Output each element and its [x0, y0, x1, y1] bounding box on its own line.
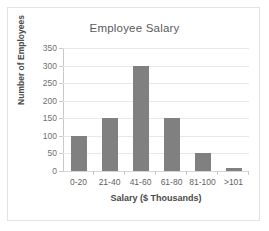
y-axis-tick-label: 50 [17, 149, 57, 158]
bar[interactable] [164, 118, 180, 171]
y-axis-tick-mark [59, 83, 63, 84]
y-axis-tick-mark [59, 136, 63, 137]
y-axis-tick-mark [59, 101, 63, 102]
y-axis-tick-mark [59, 153, 63, 154]
x-axis-tick-slot [187, 171, 218, 175]
y-axis-tick-label: 300 [17, 62, 57, 71]
bar-slot [63, 48, 94, 171]
y-axis-tick-mark [59, 118, 63, 119]
bar-slot [156, 48, 187, 171]
x-axis-tick-label: 0-20 [63, 177, 94, 187]
bar-slot [125, 48, 156, 171]
chart-title: Employee Salary [8, 22, 261, 34]
bar[interactable] [102, 118, 118, 171]
x-axis-tick-label: 81-100 [187, 177, 218, 187]
chart-frame: Employee Salary Number of Employees 0501… [7, 7, 260, 221]
bar-slot [187, 48, 218, 171]
y-axis-tick-mark [59, 171, 63, 172]
x-axis-tick-label: 61-80 [156, 177, 187, 187]
y-axis-tick-label: 350 [17, 44, 57, 53]
y-axis-tick-label: 0 [17, 167, 57, 176]
x-axis-tick-label: >101 [218, 177, 249, 187]
x-axis-title: Salary ($ Thousands) [63, 193, 249, 203]
x-axis-tick-slot [156, 171, 187, 175]
y-axis-tick-label: 250 [17, 79, 57, 88]
y-axis-tick-label: 200 [17, 97, 57, 106]
x-axis-tick-mark [248, 171, 249, 175]
bar-slot [94, 48, 125, 171]
bar[interactable] [133, 66, 149, 171]
y-axis-tick-label: 100 [17, 132, 57, 141]
x-axis-tick-label: 41-60 [125, 177, 156, 187]
bar-series [63, 48, 249, 171]
y-axis-tick-mark [59, 48, 63, 49]
x-axis-tick-marks [63, 171, 249, 175]
x-axis-tick-slot [218, 171, 249, 175]
y-axis-tick-labels: 050100150200250300350 [12, 48, 57, 172]
bar[interactable] [195, 153, 211, 171]
bar[interactable] [71, 136, 87, 171]
y-axis-tick-mark [59, 66, 63, 67]
plot-area [63, 48, 249, 171]
y-axis-tick-label: 150 [17, 114, 57, 123]
bar-slot [218, 48, 249, 171]
x-axis-tick-labels: 0-2021-4041-6061-8081-100>101 [63, 177, 249, 187]
x-axis-tick-slot [94, 171, 125, 175]
x-axis-tick-slot [63, 171, 94, 175]
x-axis-tick-slot [125, 171, 156, 175]
x-axis-tick-label: 21-40 [94, 177, 125, 187]
